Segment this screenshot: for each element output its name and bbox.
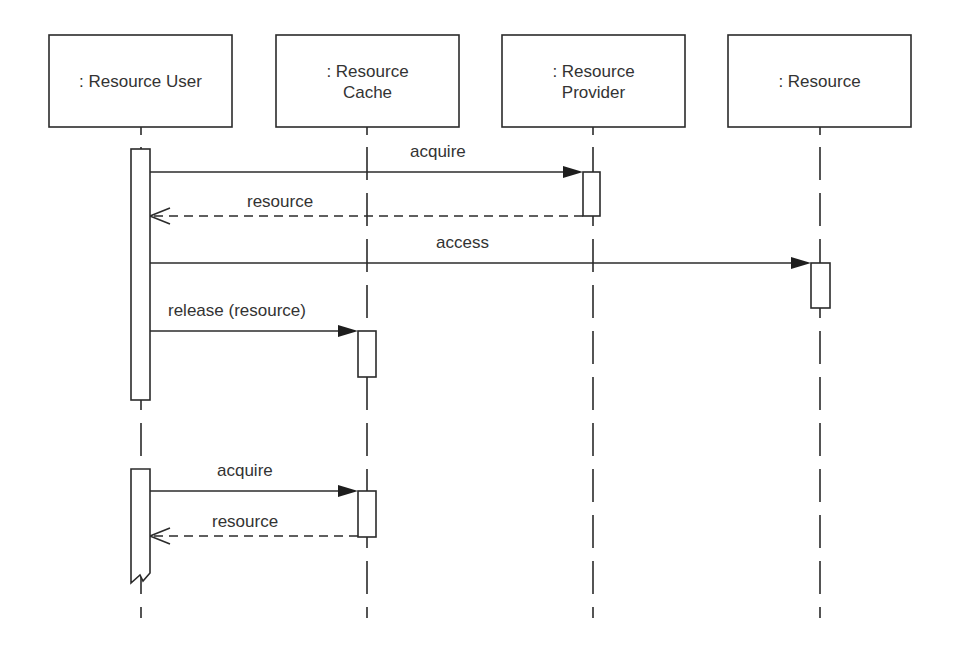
filled-arrowhead-icon: [563, 166, 583, 178]
participant-label: : Resource: [778, 72, 860, 91]
participant-resource: : Resource: [728, 35, 911, 127]
participant-provider: : ResourceProvider: [502, 35, 685, 127]
activation-bar-user: [131, 469, 150, 583]
participant-box: [276, 35, 459, 127]
participant-label: : Resource User: [79, 72, 202, 91]
message-label: resource: [212, 512, 278, 531]
activation-bar-user: [131, 149, 150, 400]
participant-boxes: : Resource User: ResourceCache: Resource…: [49, 35, 911, 127]
message-label: acquire: [217, 461, 273, 480]
participant-label: Provider: [562, 83, 626, 102]
message-sync: release (resource): [150, 301, 358, 337]
lifelines: [141, 127, 820, 618]
message-label: access: [436, 233, 489, 252]
filled-arrowhead-icon: [338, 485, 358, 497]
filled-arrowhead-icon: [338, 325, 358, 337]
message-return: resource: [150, 512, 358, 544]
message-label: acquire: [410, 142, 466, 161]
participant-box: [502, 35, 685, 127]
message-label: release (resource): [168, 301, 306, 320]
message-sync: access: [150, 233, 811, 269]
messages: acquireresourceaccessrelease (resource)a…: [150, 142, 811, 544]
participant-label: Cache: [343, 83, 392, 102]
participant-user: : Resource User: [49, 35, 232, 127]
participant-label: : Resource: [326, 62, 408, 81]
activation-bar-resource: [811, 263, 830, 308]
activation-bar-cache: [358, 331, 376, 377]
sequence-diagram: : Resource User: ResourceCache: Resource…: [0, 0, 956, 648]
activation-bar-cache: [358, 491, 376, 537]
filled-arrowhead-icon: [791, 257, 811, 269]
participant-label: : Resource: [552, 62, 634, 81]
activation-bar-provider: [583, 172, 600, 216]
participant-cache: : ResourceCache: [276, 35, 459, 127]
message-sync: acquire: [150, 461, 358, 497]
message-label: resource: [247, 192, 313, 211]
